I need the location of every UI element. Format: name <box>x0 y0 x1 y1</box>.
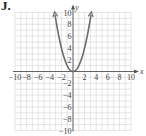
chart: xy−10−8−6−4−2246810108642−2−4−6−8−10 <box>0 0 146 135</box>
y-tick-label: 2 <box>68 56 72 65</box>
y-tick-label: 8 <box>68 20 72 29</box>
y-tick-label: −2 <box>63 79 72 88</box>
x-tick-label: 10 <box>127 73 135 82</box>
x-tick-label: 8 <box>117 73 121 82</box>
y-tick-label: −8 <box>63 115 72 124</box>
x-tick-label: 4 <box>94 73 98 82</box>
x-tick-label: 6 <box>106 73 110 82</box>
x-tick-label: −4 <box>46 73 55 82</box>
y-tick-label: 10 <box>64 9 72 18</box>
y-tick-label: −6 <box>63 103 72 112</box>
x-tick-label: −6 <box>34 73 43 82</box>
x-tick-label: 2 <box>83 73 87 82</box>
y-tick-label: −10 <box>59 127 72 136</box>
x-tick-label: −10 <box>9 73 22 82</box>
x-axis-label: x <box>139 67 144 76</box>
y-tick-label: 4 <box>68 44 72 53</box>
y-tick-label: −4 <box>63 91 72 100</box>
y-axis-label: y <box>74 3 79 12</box>
x-tick-label: −8 <box>22 73 31 82</box>
y-tick-label: 6 <box>68 32 72 41</box>
